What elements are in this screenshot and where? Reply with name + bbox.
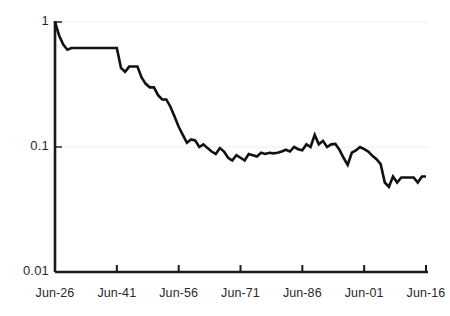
x-tick-label: Jun-16 <box>386 286 450 300</box>
chart-container: 10.10.01 Jun-26Jun-41Jun-56Jun-71Jun-86J… <box>0 0 450 316</box>
series-line-value <box>55 22 426 187</box>
line-chart-svg <box>0 0 450 316</box>
y-tick-label: 0.1 <box>30 138 49 153</box>
gridlines <box>55 22 428 147</box>
y-tick-label: 0.01 <box>23 263 49 278</box>
data-series <box>55 22 426 187</box>
y-tick-label: 1 <box>42 13 49 28</box>
